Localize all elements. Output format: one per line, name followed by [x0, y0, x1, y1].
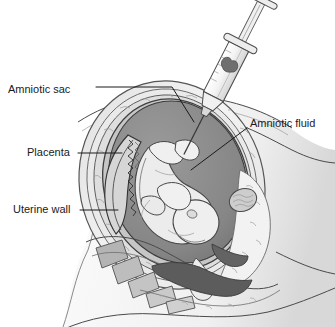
illustration-canvas: Amniotic sac Placenta Uterine wall Amnio…	[0, 0, 335, 327]
label-placenta: Placenta	[27, 146, 71, 158]
label-amniotic-sac: Amniotic sac	[8, 83, 71, 95]
amniocentesis-figure: Amniotic sac Placenta Uterine wall Amnio…	[0, 0, 335, 327]
label-amniotic-fluid: Amniotic fluid	[250, 117, 315, 129]
label-uterine-wall: Uterine wall	[13, 203, 70, 215]
